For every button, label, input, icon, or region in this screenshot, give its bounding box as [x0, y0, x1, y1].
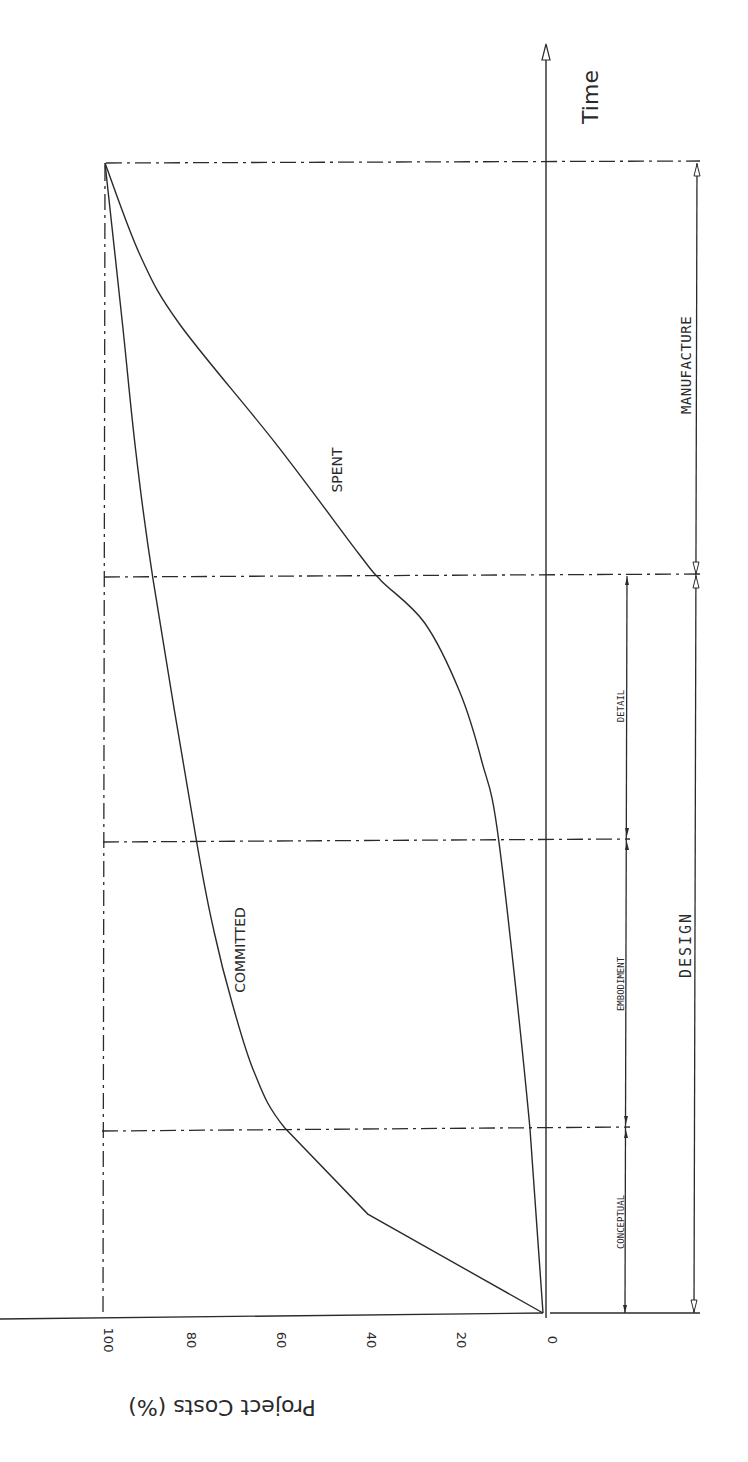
- phase-arrow-icon: [623, 1305, 627, 1313]
- phase-arrow-icon: [624, 1116, 628, 1124]
- phase-label-conceptual: CONCEPTUAL: [616, 1195, 626, 1249]
- embodiment-detail-boundary-line: [103, 839, 630, 842]
- phase-label-embodiment: EMBODIMENT: [616, 956, 626, 1011]
- spent-label: SPENT: [329, 447, 345, 493]
- detail-manufacture-boundary-line: [104, 574, 700, 577]
- cost-axis-title: Project Costs (%): [128, 1395, 316, 1420]
- time-axis-arrow-icon: [542, 44, 550, 60]
- tick-label: 100: [101, 1328, 116, 1353]
- phase-arrow-icon: [625, 842, 629, 850]
- phase-arrow-icon: [625, 577, 629, 585]
- cost-axis-ticks: 0 20 40 60 80 100: [101, 1328, 560, 1353]
- phase-arrow-icon: [625, 828, 629, 836]
- group-arrow-icon: [694, 164, 700, 176]
- group-arrow-icon: [693, 562, 699, 574]
- group-dimension-line: [694, 163, 697, 1313]
- group-label-design: DESIGN: [677, 912, 695, 978]
- tick-label: 0: [545, 1336, 560, 1344]
- group-label-manufacture: MANUFACTURE: [678, 316, 694, 414]
- committed-label: COMMITTED: [232, 907, 248, 993]
- tick-label: 60: [274, 1332, 289, 1349]
- committed-curve: [105, 163, 543, 1313]
- reference-lines: [102, 161, 700, 1312]
- phase-arrow-icon: [624, 1130, 628, 1138]
- cost-commitment-chart: 0 20 40 60 80 100 Project Costs (%) Time…: [0, 0, 748, 1462]
- time-axis-title: Time: [578, 70, 603, 125]
- cost-axis: [0, 1313, 543, 1319]
- hundred-percent-line: [103, 163, 105, 1312]
- group-arrow-icon: [693, 576, 699, 588]
- phase-label-detail: DETAIL: [616, 690, 626, 723]
- spent-curve: [105, 163, 543, 1313]
- tick-label: 20: [454, 1332, 469, 1349]
- group-arrow-icon: [691, 1300, 697, 1312]
- tick-label: 40: [364, 1332, 379, 1349]
- conceptual-embodiment-boundary-line: [102, 1127, 630, 1131]
- end-boundary-line: [106, 161, 700, 163]
- tick-label: 80: [184, 1332, 199, 1349]
